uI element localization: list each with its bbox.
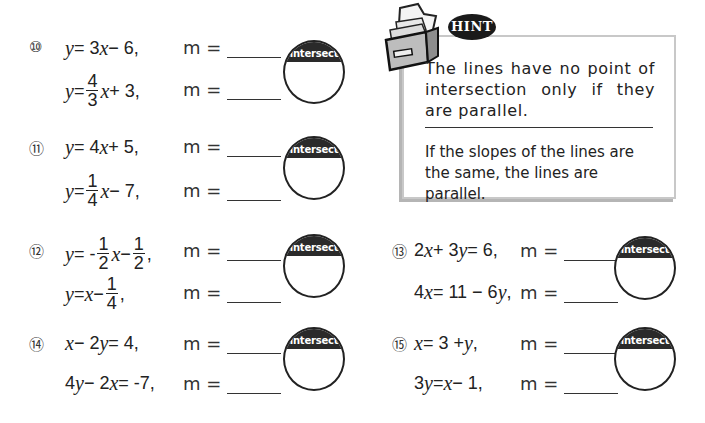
hint-text-parallel: The lines have no point of intersection … [425,58,655,121]
denominator: 2 [97,254,109,272]
intersect-circle[interactable]: intersect [283,136,345,200]
answer-blank[interactable] [564,246,618,261]
answer-blank[interactable] [227,186,281,201]
m-label: m = [520,240,558,261]
slope-answer-1[interactable]: m = [183,136,281,157]
answer-blank[interactable] [564,379,618,394]
denominator: 2 [133,254,145,272]
equation-1: y = 4x + 5, [65,137,139,157]
m-label: m = [183,136,221,157]
var: x [424,240,433,260]
numerator: 1 [97,235,109,254]
slope-answer-1[interactable]: m = [183,240,281,261]
term: − [120,245,131,263]
answer-blank[interactable] [227,379,281,394]
intersect-label: intersect [285,329,343,349]
m-label: m = [183,180,221,201]
var: y [65,181,74,201]
term: = [74,182,85,200]
m-label: m = [520,282,558,303]
term: − 2 [84,374,110,392]
answer-blank[interactable] [564,288,618,303]
fraction: 12 [133,235,145,272]
term: = [433,374,444,392]
var: x [99,38,108,58]
m-label: m = [183,79,221,100]
var: y [65,81,74,101]
var: x [65,333,74,353]
answer-blank[interactable] [227,43,281,58]
term: = - [74,245,96,263]
intersect-circle[interactable]: intersect [283,234,345,298]
numerator: 1 [106,275,118,294]
problem-number: ⑬ [392,240,407,261]
term: 3 [414,374,424,392]
var: x [443,373,452,393]
var: x [414,333,423,353]
term: = -7, [118,374,155,392]
problem-number: ⑫ [29,240,44,261]
problem-number: ⑩ [29,38,42,56]
answer-blank[interactable] [227,288,281,303]
answer-blank[interactable] [227,246,281,261]
equation-1: 2x + 3y = 6, [414,240,498,260]
intersect-label: intersect [616,329,674,349]
problem-number: ⑭ [29,333,44,354]
m-label: m = [183,240,221,261]
slope-answer-2[interactable]: m = [183,79,281,100]
hint-text-slopes: If the slopes of the lines are the same,… [425,142,657,205]
m-label: m = [520,333,558,354]
equation-1: x − 2y = 4, [65,333,139,353]
slope-answer-2[interactable]: m = [183,180,281,201]
slope-answer-2[interactable]: m = [520,282,618,303]
slope-answer-2[interactable]: m = [183,373,281,394]
term: , [120,285,125,303]
slope-answer-1[interactable]: m = [520,333,618,354]
intersect-circle[interactable]: intersect [283,40,345,104]
var: y [424,373,433,393]
fraction: 12 [97,235,109,272]
answer-blank[interactable] [227,85,281,100]
hint-divider [425,127,653,128]
var: y [65,244,74,264]
slope-answer-1[interactable]: m = [183,37,281,58]
term: + 5, [108,138,139,156]
slope-answer-2[interactable]: m = [183,282,281,303]
equation-2: y = 43 x + 3, [65,72,140,109]
slope-answer-1[interactable]: m = [183,333,281,354]
term: = [74,285,85,303]
answer-blank[interactable] [227,339,281,354]
fraction: 14 [86,172,98,209]
var: y [458,240,467,260]
numerator: 1 [133,235,145,254]
var: y [75,373,84,393]
equation-1: y = - 12 x − 12, [65,235,152,272]
slope-answer-2[interactable]: m = [520,373,618,394]
fraction: 14 [106,275,118,312]
intersect-circle[interactable]: intersect [283,327,345,391]
intersect-label: intersect [285,236,343,256]
term: , [147,245,152,263]
equation-1: y = 3x − 6, [65,38,139,58]
term: 2 [414,241,424,259]
intersect-circle[interactable]: intersect [614,236,676,300]
term: = [74,82,85,100]
equation-2: 3y = x − 1, [414,373,483,393]
var: x [100,181,109,201]
term: − 7, [109,182,140,200]
intersect-label: intersect [285,42,343,62]
equation-2: 4x = 11 − 6y, [414,282,512,302]
term: 4 [65,374,75,392]
slope-answer-1[interactable]: m = [520,240,618,261]
term: = 6, [467,241,498,259]
intersect-label: intersect [285,138,343,158]
m-label: m = [183,373,221,394]
answer-blank[interactable] [227,142,281,157]
intersect-circle[interactable]: intersect [614,327,676,391]
answer-blank[interactable] [564,339,618,354]
hint-badge: HINT [448,14,496,40]
term: − 6, [108,39,139,57]
var: y [65,38,74,58]
term: − 2 [74,334,100,352]
term: + 3 [433,241,459,259]
